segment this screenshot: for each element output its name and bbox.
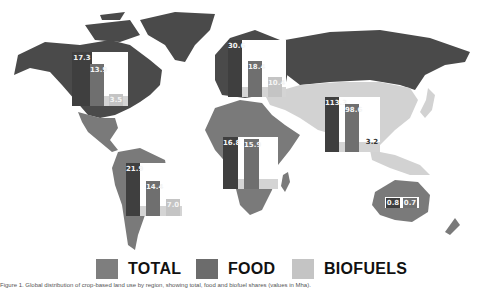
bar-la-food: 14.4 xyxy=(146,181,160,216)
bar-asia-food: 98.6 xyxy=(345,104,359,152)
legend-swatch-food xyxy=(196,259,218,279)
legend-label-biofuels: BIOFUELS xyxy=(324,260,407,278)
legend-swatch-total xyxy=(96,259,118,279)
bar-asia-total: 113.3 xyxy=(325,97,339,152)
bar-eu-total: 30.6 xyxy=(228,40,242,97)
russia xyxy=(285,30,470,90)
legend-label-food: FOOD xyxy=(228,260,275,278)
bar-na-total: 17.3 xyxy=(72,52,92,106)
madagascar xyxy=(281,172,290,192)
bar-africa-food: 15.9 xyxy=(244,139,259,189)
legend-item-biofuels: BIOFUELS xyxy=(292,258,407,280)
new-zealand xyxy=(445,218,460,235)
japan xyxy=(420,88,435,118)
central-america xyxy=(78,112,118,152)
chart-africa: 16.8 15.9 xyxy=(223,137,278,189)
chart-legend: TOTAL FOOD BIOFUELS xyxy=(0,258,492,280)
bar-la-biofuels: 7.0 xyxy=(166,199,180,216)
greenland xyxy=(140,12,215,62)
legend-swatch-biofuels xyxy=(292,259,314,279)
bar-oceania-food: 0.7 xyxy=(403,198,417,208)
southeast-asia xyxy=(370,150,430,175)
chart-latin-america: 21.9 14.4 7.0 xyxy=(126,163,182,216)
bar-asia-biofuels: 3.2 xyxy=(365,148,379,152)
bar-la-total: 21.9 xyxy=(126,163,140,216)
chart-europe: 30.6 18.4 10.4 xyxy=(228,40,286,97)
bar-na-food: 13.9 xyxy=(90,64,104,106)
bar-oceania-total: 0.8 xyxy=(386,198,400,208)
figure-caption: Figure 1. Global distribution of crop-ba… xyxy=(0,282,492,290)
bar-na-biofuels: 3.5 xyxy=(109,94,123,106)
legend-item-total: TOTAL xyxy=(96,258,181,280)
legend-label-total: TOTAL xyxy=(128,260,181,278)
bar-africa-total: 16.8 xyxy=(223,137,238,189)
bar-eu-food: 18.4 xyxy=(248,61,262,97)
chart-asia: 113.3 98.6 3.2 xyxy=(325,97,380,152)
world-map xyxy=(0,0,492,260)
chart-north-america: 17.3 13.9 3.5 xyxy=(72,52,128,106)
legend-item-food: FOOD xyxy=(196,258,275,280)
chart-oceania: 0.8 0.7 xyxy=(385,197,419,208)
bar-eu-biofuels: 10.4 xyxy=(268,77,282,97)
arctic-islands xyxy=(85,12,140,42)
